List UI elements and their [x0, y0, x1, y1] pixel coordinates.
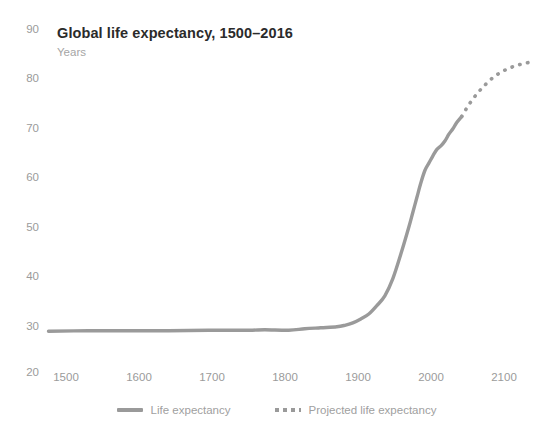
legend-label-projected-life-expectancy: Projected life expectancy — [309, 403, 437, 417]
chart-legend: Life expectancy Projected life expectanc… — [0, 403, 553, 417]
x-tick-1800: 1800 — [255, 371, 315, 384]
x-tick-1600: 1600 — [109, 371, 169, 384]
legend-item-life-expectancy[interactable]: Life expectancy — [117, 403, 231, 417]
y-tick-40: 40 — [11, 270, 39, 282]
y-tick-50: 50 — [11, 221, 39, 233]
series-life-expectancy — [49, 116, 462, 331]
dotted-line-swatch-icon — [275, 408, 301, 412]
legend-label-life-expectancy: Life expectancy — [151, 403, 231, 417]
legend-item-projected-life-expectancy[interactable]: Projected life expectancy — [275, 403, 437, 417]
series-projected-life-expectancy — [462, 62, 529, 116]
x-tick-2100: 2100 — [474, 371, 534, 384]
life-expectancy-chart: Global life expectancy, 1500–2016 Years … — [0, 0, 553, 433]
x-tick-1500: 1500 — [36, 371, 96, 384]
y-tick-60: 60 — [11, 171, 39, 183]
x-tick-1900: 1900 — [328, 371, 388, 384]
y-tick-90: 90 — [11, 23, 39, 35]
plot-canvas — [0, 0, 553, 433]
x-tick-1700: 1700 — [182, 371, 242, 384]
solid-line-swatch-icon — [117, 408, 143, 412]
y-tick-20: 20 — [11, 366, 39, 378]
y-tick-80: 80 — [11, 72, 39, 84]
y-tick-70: 70 — [11, 122, 39, 134]
y-tick-30: 30 — [11, 320, 39, 332]
x-tick-2000: 2000 — [401, 371, 461, 384]
